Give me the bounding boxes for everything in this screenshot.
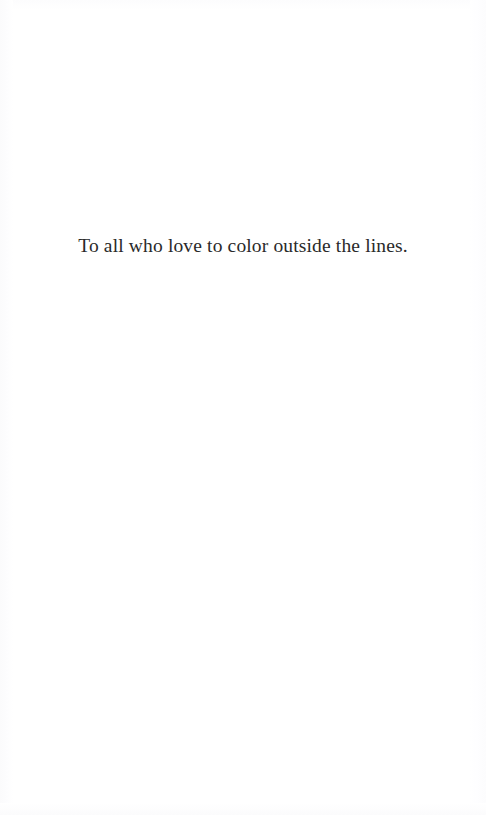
scan-edge-top <box>0 0 486 10</box>
scan-edge-right <box>470 0 486 815</box>
scanned-page: To all who love to color outside the lin… <box>0 0 486 815</box>
scan-edge-bottom <box>0 803 486 815</box>
dedication-text-block: To all who love to color outside the lin… <box>0 234 486 258</box>
scan-edge-left <box>0 0 13 815</box>
dedication-line: To all who love to color outside the lin… <box>78 234 408 258</box>
